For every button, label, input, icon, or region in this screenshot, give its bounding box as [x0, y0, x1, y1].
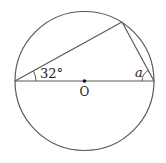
angle-arc-right — [142, 71, 148, 82]
circle-diagram: 32° a O — [0, 0, 166, 163]
angle-arc-left — [33, 71, 36, 81]
chord-left — [15, 22, 122, 81]
angle-label-32: 32° — [40, 66, 63, 81]
center-point — [83, 79, 87, 83]
center-label-o: O — [80, 85, 90, 99]
angle-label-a: a — [135, 65, 143, 80]
